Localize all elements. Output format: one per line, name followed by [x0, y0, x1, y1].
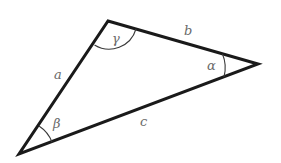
triangle-diagram: a b c γ α β [0, 0, 281, 163]
angle-beta-label: β [53, 117, 61, 130]
side-c-label: c [140, 115, 147, 128]
side-b-label: b [184, 24, 192, 37]
triangle-outline [19, 21, 258, 154]
angle-alpha-label: α [207, 59, 216, 72]
triangle-svg [0, 0, 281, 163]
angle-alpha-arc [223, 54, 226, 77]
angle-gamma-label: γ [112, 32, 120, 45]
angle-beta-arc [39, 126, 52, 142]
side-a-label: a [54, 68, 62, 81]
